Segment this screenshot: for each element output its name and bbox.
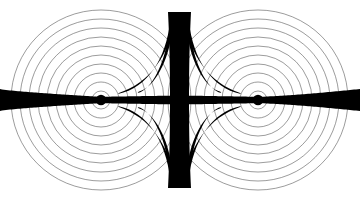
source-point-right-source	[253, 95, 263, 105]
source-point-left-source	[96, 95, 106, 105]
vertical-bisector-band	[168, 12, 191, 188]
figure-canvas	[0, 0, 360, 200]
interference-pattern-svg	[0, 0, 360, 200]
